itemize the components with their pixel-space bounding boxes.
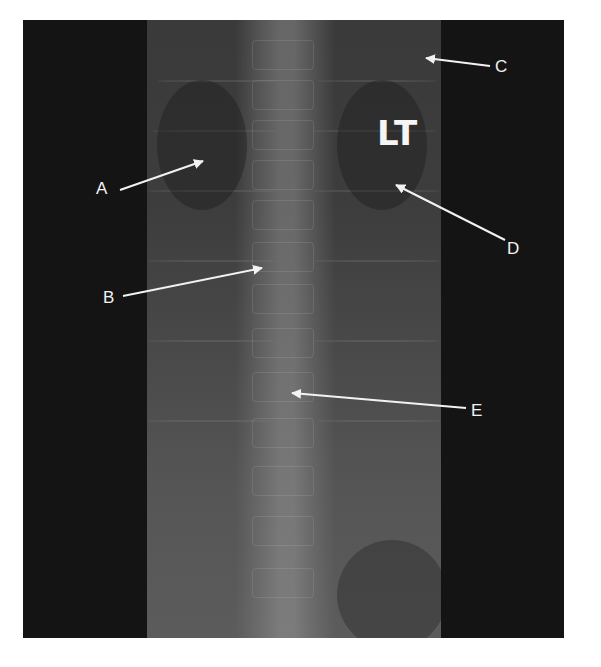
xray-frame: LT [23, 20, 564, 638]
abdominal-shadow [337, 540, 447, 638]
rib [312, 260, 441, 262]
lung-shadow-right [157, 80, 247, 210]
vertebra [252, 418, 314, 448]
vertebra [252, 568, 314, 598]
side-marker-lt: LT [377, 116, 418, 150]
vertebra [252, 120, 314, 150]
rib [317, 420, 441, 422]
vertebra [252, 516, 314, 546]
vertebra [252, 328, 314, 358]
vertebra [252, 242, 314, 272]
label-b: B [103, 289, 114, 306]
label-a: A [96, 180, 107, 197]
vertebra [252, 284, 314, 314]
vertebra [252, 40, 314, 70]
vertebra [252, 372, 314, 402]
rib [312, 340, 441, 342]
vertebra [252, 160, 314, 190]
vertebra [252, 80, 314, 110]
vertebra [252, 200, 314, 230]
label-d: D [507, 240, 519, 257]
label-e: E [471, 402, 482, 419]
vertebra [252, 466, 314, 496]
label-c: C [495, 58, 507, 75]
